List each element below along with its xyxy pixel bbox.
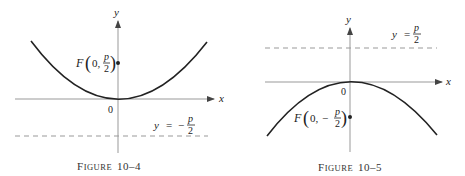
directrix-numerator: p	[413, 22, 419, 33]
x-axis-label: x	[445, 75, 451, 87]
directrix-numerator: p	[187, 113, 193, 124]
parabola-curve	[267, 82, 437, 136]
directrix-eq: =	[166, 119, 172, 131]
diagram-canvas: x y 0 F ( 0, p 2 ) y = − p 2 FIGURE10–4	[0, 0, 465, 176]
focus-label: F ( 0, p 2 )	[75, 51, 116, 74]
x-axis-label: x	[218, 92, 224, 104]
focus-sign: −	[322, 112, 328, 124]
directrix-eq: =	[404, 28, 410, 40]
right-paren: )	[341, 108, 347, 129]
focus-point	[348, 115, 352, 119]
directrix-denominator: 2	[188, 125, 193, 136]
origin-label: 0	[108, 104, 113, 115]
directrix-lhs: y	[391, 28, 397, 40]
focus-label: F ( 0, − p 2 )	[293, 106, 347, 129]
parabola-curve	[31, 41, 207, 99]
directrix-label: y = p 2	[391, 22, 421, 45]
y-axis-label: y	[113, 6, 119, 18]
figure-caption: FIGURE10–5	[318, 161, 382, 173]
directrix-denominator: 2	[414, 34, 419, 45]
focus-numerator: p	[334, 106, 340, 117]
directrix-lhs: y	[153, 119, 159, 131]
directrix-label: y = − p 2	[153, 113, 195, 136]
focus-x-coord: 0,	[92, 57, 101, 69]
origin-label: 0	[341, 86, 346, 97]
focus-denominator: 2	[104, 63, 109, 74]
y-axis-label: y	[345, 13, 351, 25]
left-paren: (	[303, 108, 309, 129]
right-paren: )	[110, 53, 116, 74]
left-paren: (	[85, 53, 91, 74]
figure-10-4: x y 0 F ( 0, p 2 ) y = − p 2 FIGURE10–4	[15, 6, 224, 172]
focus-point	[116, 61, 120, 65]
focus-letter: F	[75, 56, 84, 70]
directrix-sign: −	[178, 119, 184, 131]
figure-10-5: x y 0 F ( 0, − p 2 ) y = p 2 FIGURE10–5	[265, 13, 451, 173]
figure-caption: FIGURE10–4	[77, 160, 141, 172]
focus-denominator: 2	[335, 118, 340, 129]
focus-letter: F	[293, 111, 302, 125]
focus-x-coord: 0,	[310, 112, 319, 124]
focus-numerator: p	[103, 51, 109, 62]
